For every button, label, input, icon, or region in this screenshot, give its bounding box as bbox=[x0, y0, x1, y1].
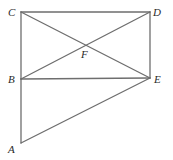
segments bbox=[21, 12, 150, 143]
label-E: E bbox=[153, 73, 161, 85]
diagram-svg: C D F B E A bbox=[0, 0, 173, 160]
label-D: D bbox=[152, 6, 161, 18]
label-B: B bbox=[8, 73, 15, 85]
label-C: C bbox=[8, 6, 16, 18]
label-A: A bbox=[7, 143, 15, 155]
segment-BE bbox=[21, 78, 150, 79]
geometry-diagram: C D F B E A bbox=[0, 0, 173, 160]
point-labels: C D F B E A bbox=[7, 6, 161, 155]
label-F: F bbox=[80, 48, 88, 60]
segment-AE bbox=[21, 78, 150, 143]
